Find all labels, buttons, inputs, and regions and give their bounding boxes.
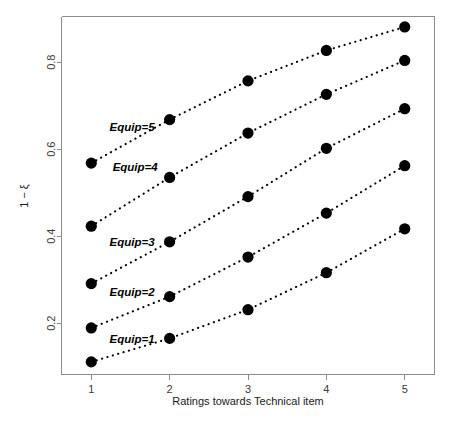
- data-point: [164, 114, 175, 125]
- x-axis-title: Ratings towards Technical item: [172, 395, 323, 407]
- data-point: [164, 333, 175, 344]
- data-point: [164, 291, 175, 302]
- data-point: [399, 103, 410, 114]
- series-label-equip-1: Equip=1: [109, 333, 154, 345]
- x-tick-label: 1: [88, 383, 94, 395]
- data-point: [242, 75, 253, 86]
- x-tick-label: 3: [245, 383, 251, 395]
- data-point: [399, 223, 410, 234]
- data-point: [321, 89, 332, 100]
- data-point: [321, 45, 332, 56]
- data-point: [86, 221, 97, 232]
- x-tick-label: 4: [323, 383, 329, 395]
- series-label-equip-2: Equip=2: [109, 286, 155, 298]
- data-point: [86, 157, 97, 168]
- data-point: [242, 304, 253, 315]
- x-tick-label: 5: [402, 383, 408, 395]
- y-tick-label: 0.6: [46, 142, 58, 157]
- y-tick-label: 0.8: [46, 55, 58, 70]
- series-label-equip-3: Equip=3: [109, 236, 155, 248]
- chart-background: [0, 0, 451, 425]
- data-point: [242, 191, 253, 202]
- y-tick-label: 0.4: [46, 229, 58, 244]
- scatter-plot-svg: 0.20.40.60.8 12345 Equip=5Equip=4Equip=3…: [0, 0, 451, 425]
- data-point: [321, 208, 332, 219]
- series-label-equip-4: Equip=4: [113, 161, 159, 173]
- data-point: [321, 267, 332, 278]
- data-point: [86, 278, 97, 289]
- y-axis-title: 1 − ξ: [18, 184, 30, 208]
- data-point: [242, 127, 253, 138]
- data-point: [321, 143, 332, 154]
- data-point: [399, 160, 410, 171]
- data-point: [242, 251, 253, 262]
- data-point: [164, 236, 175, 247]
- chart-figure: 0.20.40.60.8 12345 Equip=5Equip=4Equip=3…: [0, 0, 451, 425]
- data-point: [86, 356, 97, 367]
- y-tick-label: 0.2: [46, 316, 58, 331]
- data-point: [399, 21, 410, 32]
- x-tick-label: 2: [167, 383, 173, 395]
- series-label-equip-5: Equip=5: [109, 121, 155, 133]
- data-point: [86, 322, 97, 333]
- data-point: [164, 172, 175, 183]
- data-point: [399, 55, 410, 66]
